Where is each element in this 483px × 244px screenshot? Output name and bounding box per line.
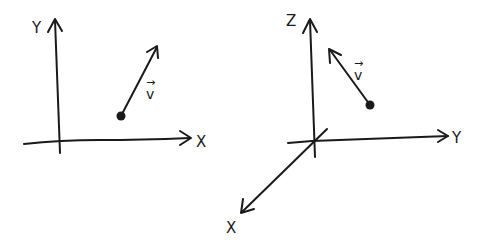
x-axis-2d [24, 138, 190, 144]
x-axis-label-2d: X [196, 133, 206, 151]
x-axis-3d [242, 129, 327, 212]
diagram-canvas: Y X v → Z Y X v → [0, 0, 483, 244]
y-axis-3d [288, 136, 448, 143]
z-axis-label-3d: Z [286, 12, 296, 30]
diagram-3d: Z Y X v → [226, 12, 462, 237]
vector-accent-3d: → [354, 57, 363, 70]
x-axis-label-3d: X [226, 219, 236, 237]
vector-shaft-3d [330, 50, 370, 105]
y-axis-label-3d: Y [451, 129, 462, 147]
vector-accent-2d: → [146, 76, 155, 89]
diagram-2d: Y X v → [24, 19, 206, 153]
z-axis-3d [310, 20, 315, 157]
y-axis-2d [55, 20, 60, 153]
y-axis-label-2d: Y [31, 19, 42, 37]
